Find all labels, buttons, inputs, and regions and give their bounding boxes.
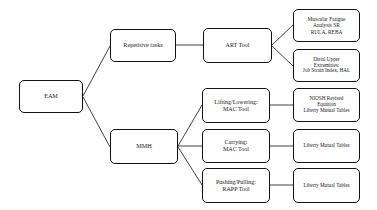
node-art-tool-label: ART Tool — [226, 42, 250, 49]
node-distal-upper-line-3: Job Strain Index, HAL — [303, 68, 350, 74]
node-carrying-line-1: Carrying: — [225, 139, 248, 146]
node-repetitive-tasks: Repetitive tasks — [110, 29, 176, 62]
node-muscular-fatigue: Muscular Fatigue Analysis SR RULA, REBA — [293, 9, 360, 42]
edge-eam-to-mmh — [83, 97, 110, 147]
node-liberty-pushing-label: Liberty Mutual Tables — [303, 183, 349, 189]
node-liberty-mutual-tables-carrying: Liberty Mutual Tables — [293, 129, 360, 163]
node-art-tool: ART Tool — [203, 28, 272, 63]
edge-mmh-to-pushing-pulling — [178, 147, 202, 185]
node-repetitive-tasks-label: Repetitive tasks — [123, 42, 162, 49]
edge-art-tool-to-distal-upper — [272, 46, 293, 66]
node-pushing-pulling-line-2: RAPP Tool — [222, 186, 249, 193]
node-niosh-line-3: Liberty Mutual Tables — [303, 108, 349, 114]
node-liberty-mutual-tables-pushing: Liberty Mutual Tables — [293, 168, 360, 203]
node-mmh: MMH — [110, 129, 178, 164]
node-eam: EAM — [19, 80, 83, 113]
node-pushing-pulling-line-1: Pushing/Pulling: — [216, 179, 256, 186]
node-distal-upper-extremities: Distal Upper Extremities: Job Strain Ind… — [293, 49, 360, 82]
edge-art-tool-to-muscular-fatigue — [272, 25, 293, 45]
node-liberty-carrying-label: Liberty Mutual Tables — [303, 143, 349, 149]
flowchart-diagram: EAM Repetitive tasks MMH ART Tool Muscul… — [0, 0, 377, 210]
edge-mmh-to-lifting-lowering — [178, 105, 202, 146]
node-carrying: Carrying: MAC Tool — [202, 129, 270, 163]
node-niosh-revised-equation: NIOSH Revised Equation Liberty Mutual Ta… — [293, 88, 360, 122]
node-pushing-pulling: Pushing/Pulling: RAPP Tool — [202, 168, 270, 203]
node-mmh-label: MMH — [136, 143, 151, 150]
node-carrying-line-2: MAC Tool — [223, 146, 249, 153]
node-lifting-lowering-line-2: MAC Tool — [223, 106, 249, 113]
edge-eam-to-repetitive-tasks — [83, 46, 110, 96]
node-muscular-fatigue-line-3: RULA, REBA — [311, 29, 343, 35]
node-lifting-lowering: Lifting/Lowering: MAC Tool — [202, 88, 270, 123]
node-lifting-lowering-line-1: Lifting/Lowering: — [214, 99, 257, 106]
node-eam-label: EAM — [44, 93, 58, 100]
